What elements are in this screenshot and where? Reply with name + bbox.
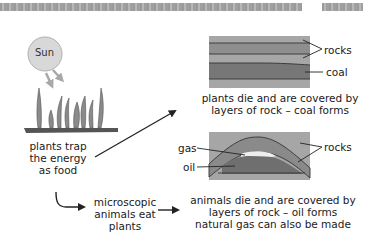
arrow-plants-to-coal: [95, 111, 175, 157]
oil-caption-line: layers of rock – oil forms: [178, 206, 368, 218]
microscopic-caption-line: animals eat: [88, 208, 162, 220]
plants-caption-line: plants trap: [18, 140, 98, 152]
coal-panel-coal-label: coal: [326, 66, 348, 78]
oil-caption-line: natural gas can also be made: [178, 218, 368, 230]
arrow-plants-to-microscopic: [56, 192, 84, 207]
oil-gas-rock-layers: [209, 132, 310, 180]
oil-panel-caption: animals die and are covered by layers of…: [178, 194, 368, 230]
sun-icon: [28, 37, 62, 86]
oil-panel-gas-label: gas: [178, 142, 197, 154]
oil-panel-rocks-label: rocks: [324, 141, 352, 153]
plants-caption-line: as food: [18, 164, 98, 176]
coal-caption-line: layers of rock – coal forms: [190, 104, 370, 116]
coal-panel-caption: plants die and are covered by layers of …: [190, 92, 370, 116]
plants-caption: plants trap the energy as food: [18, 140, 98, 176]
oil-panel-oil-label: oil: [183, 161, 195, 173]
microscopic-caption: microscopic animals eat plants: [88, 196, 162, 232]
microscopic-caption-line: plants: [88, 220, 162, 232]
ground-strip: [24, 128, 118, 133]
coal-rock-layers: [209, 36, 310, 88]
sun-label: Sun: [35, 47, 54, 59]
plants-caption-line: the energy: [18, 152, 98, 164]
coal-caption-line: plants die and are covered by: [190, 92, 370, 104]
microscopic-caption-line: microscopic: [88, 196, 162, 208]
coal-panel-rocks-label: rocks: [324, 44, 352, 56]
oil-caption-line: animals die and are covered by: [178, 194, 368, 206]
plants-icon: [37, 88, 103, 128]
